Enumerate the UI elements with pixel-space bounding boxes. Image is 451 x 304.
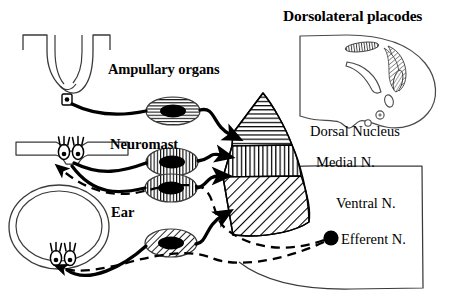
neuromast-hair-cell-right [72,137,83,160]
label-ear: Ear [111,205,134,220]
label-dorsal-nucleus: Dorsal Nucleus [310,124,400,139]
embryo-head-inset [300,35,436,128]
efferent-nucleus-dot [323,230,338,245]
ampullary-canal-outer [23,35,110,93]
afferent-neuromast-to-medial-upper [198,154,222,161]
ear-canal-inner [16,191,102,261]
ganglia-group [145,97,200,257]
ganglion-ampullary [146,97,200,125]
ampullary-organ-group [23,35,110,105]
label-medial-nucleus: Medial N. [316,155,375,170]
eye-pupil [379,114,381,116]
neuroanatomy-diagram [0,0,451,304]
afferent-neuromast-to-ganglion-upper [74,163,146,171]
afferent-ampullary-to-ganglion [72,104,146,114]
ampullary-receptor-nucleus [65,97,70,102]
ventral-nucleus-region [223,176,310,236]
label-ventral-nucleus: Ventral N. [336,196,396,211]
label-dorsolateral-placodes: Dorsolateral placodes [283,8,422,24]
label-efferent-nucleus: Efferent N. [341,232,406,247]
dorsal-nucleus-region [232,93,292,146]
afferent-ear-to-ventral [196,216,222,244]
label-ampullary-organs: Ampullary organs [108,62,220,77]
label-neuromast: Neuromast [110,137,178,152]
ampullary-canal-base [60,84,76,90]
ear-group [9,185,109,269]
figure-canvas: Dorsolateral placodes Ampullary organs N… [0,0,451,304]
medial-nucleus-region [223,145,301,177]
ganglion-neuromast-upper [146,148,198,176]
afferent-ampullary-to-dorsal [200,109,231,135]
ampullary-canal-inner [55,35,82,84]
neuromast-hair-cell-left [58,137,69,160]
hindbrain-nuclei-column [223,93,310,236]
